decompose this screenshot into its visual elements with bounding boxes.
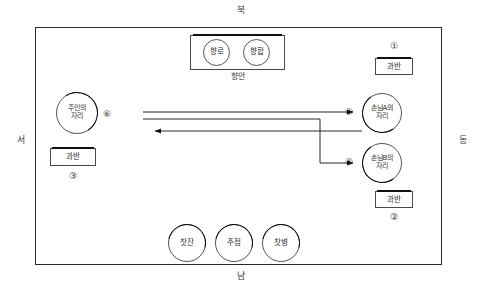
marker-number-5: ⑤ — [345, 158, 353, 167]
incense-box-label: 향합 — [250, 48, 264, 56]
guest-b-seat-circle: 손님B의 자리 — [362, 143, 402, 183]
marker-number-4: ④ — [345, 108, 353, 117]
teabottle-label: 찻병 — [274, 239, 288, 247]
host-seat-label-line2: 자리 — [71, 112, 83, 120]
tray-1-label: 과반 — [387, 63, 401, 71]
tray-2-label: 과반 — [387, 196, 401, 204]
host-seat-label: 주인의 자리 — [68, 105, 86, 121]
marker-number-2: ② — [375, 213, 413, 222]
host-seat-circle: 주인의 자리 — [56, 92, 98, 134]
pot-label: 주점 — [227, 239, 241, 247]
guest-a-seat-label-line2: 자리 — [376, 112, 388, 120]
incense-table-label: 향안 — [190, 73, 285, 81]
host-seat-label-line1: 주인의 — [68, 104, 86, 112]
pot-circle: 주점 — [215, 224, 253, 262]
guest-b-seat-label: 손님B의 자리 — [371, 155, 394, 171]
guest-a-seat-circle: 손님A의 자리 — [362, 93, 402, 133]
incense-box-circle: 향합 — [243, 39, 270, 66]
tray-3-label: 과반 — [66, 153, 80, 161]
marker-number-1: ① — [375, 42, 413, 51]
teacup-label: 찻잔 — [180, 239, 194, 247]
guest-b-seat-label-line2: 자리 — [376, 162, 388, 170]
marker-number-6: ⑥ — [103, 110, 111, 119]
tray-2: 과반 — [375, 191, 413, 208]
compass-label-east: 동 — [452, 136, 474, 145]
guest-b-seat-label-line1: 손님B의 — [371, 154, 394, 162]
marker-number-3: ③ — [50, 172, 96, 181]
tray-3: 과반 — [50, 148, 96, 166]
censer-circle: 향로 — [203, 39, 230, 66]
compass-label-south: 남 — [0, 272, 482, 281]
compass-label-north: 북 — [0, 6, 482, 15]
tray-1: 과반 — [375, 58, 413, 75]
guest-a-seat-label: 손님A의 자리 — [371, 105, 394, 121]
teabottle-circle: 찻병 — [262, 224, 300, 262]
compass-label-west: 서 — [10, 136, 32, 145]
guest-a-seat-label-line1: 손님A의 — [371, 104, 394, 112]
diagram-canvas: 북 남 서 동 향로 향합 향안 주인의 자리 ⑥ 과반 ③ ① 과반 손님A의… — [0, 0, 482, 293]
teacup-circle: 찻잔 — [168, 224, 206, 262]
censer-label: 향로 — [210, 48, 224, 56]
